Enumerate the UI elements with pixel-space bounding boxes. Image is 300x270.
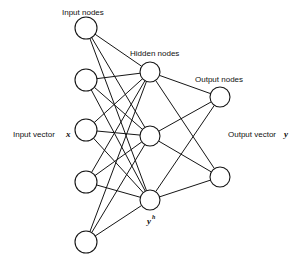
- hidden-vector-superscript: h: [152, 214, 156, 220]
- edge-input-3-to-hidden-2: [97, 131, 140, 135]
- hidden-node-3: [140, 190, 160, 210]
- input-node-4: [75, 171, 97, 193]
- output-node-1: [210, 87, 230, 107]
- input-node-2: [75, 69, 97, 91]
- hidden-node-1: [140, 62, 160, 82]
- edge-hidden-2-to-output-1: [159, 102, 212, 131]
- input-node-3: [75, 119, 97, 141]
- output-node-2: [210, 167, 230, 187]
- edge-hidden-2-to-output-2: [159, 141, 212, 172]
- input-vector-label: Input vector x: [13, 129, 71, 139]
- output-vector-text: Output vector: [228, 130, 276, 139]
- output-vector-symbol: y: [283, 129, 289, 139]
- edge-input-1-to-hidden-3: [90, 38, 147, 190]
- input-vector-symbol: x: [65, 129, 71, 139]
- input-node-5: [75, 231, 97, 253]
- output-nodes-label: Output nodes: [195, 75, 243, 84]
- hidden-node-2: [140, 126, 160, 146]
- neural-network-diagram: Input nodes Hidden nodes Output nodes In…: [0, 0, 300, 270]
- edge-input-5-to-hidden-3: [95, 205, 141, 235]
- input-nodes-label: Input nodes: [62, 8, 104, 17]
- input-node-1: [75, 17, 97, 39]
- input-vector-text: Input vector: [13, 130, 55, 139]
- edge-hidden-3-to-output-2: [160, 180, 211, 197]
- hidden-nodes-label: Hidden nodes: [130, 49, 179, 58]
- edge-hidden-3-to-output-1: [156, 105, 215, 191]
- output-vector-label: Output vector y: [228, 129, 289, 139]
- edge-hidden-1-to-output-2: [156, 80, 215, 168]
- hidden-vector-label: y h: [146, 214, 156, 226]
